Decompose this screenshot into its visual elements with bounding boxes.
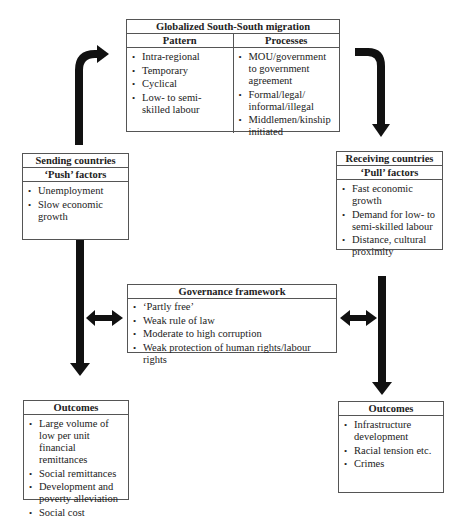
outcomes-left-title: Outcomes bbox=[24, 401, 128, 415]
governance-box: Governance framework ‘Partly free’ Weak … bbox=[127, 284, 337, 353]
list-item: Cyclical bbox=[131, 78, 229, 90]
list-item: Fast economic growth bbox=[341, 183, 438, 207]
double-arrow-right-icon bbox=[340, 310, 377, 326]
arrow-down-right-icon bbox=[372, 276, 392, 395]
pull-factors-list: Fast economic growth Demand for low- to … bbox=[337, 180, 442, 262]
list-item: Large volume of low per unit financial r… bbox=[28, 418, 124, 466]
list-item: Development and poverty alleviation bbox=[28, 481, 124, 505]
list-item: Middlemen/kinship initiated bbox=[238, 114, 336, 138]
list-item: Weak protection of human rights/labour r… bbox=[132, 342, 332, 366]
processes-column: Processes MOU/government to government a… bbox=[233, 34, 340, 133]
list-item: Moderate to high corruption bbox=[132, 328, 332, 340]
list-item: Social cost bbox=[28, 507, 124, 519]
outcomes-left-box: Outcomes Large volume of low per unit fi… bbox=[23, 400, 129, 500]
arrow-down-left-icon bbox=[70, 240, 90, 376]
list-item: Intra-regional bbox=[131, 51, 229, 63]
list-item: Slow economic growth bbox=[27, 199, 124, 223]
list-item: MOU/government to government agreement bbox=[238, 51, 336, 87]
receiving-countries-box: Receiving countries ‘Pull’ factors Fast … bbox=[336, 151, 443, 250]
list-item: Formal/legal/ informal/illegal bbox=[238, 89, 336, 113]
list-item: Unemployment bbox=[27, 185, 124, 197]
sending-countries-box: Sending countries ‘Push’ factors Unemplo… bbox=[22, 153, 129, 240]
receiving-title: Receiving countries bbox=[337, 152, 442, 166]
list-item: ‘Partly free’ bbox=[132, 301, 332, 313]
list-item: Weak rule of law bbox=[132, 315, 332, 327]
processes-header: Processes bbox=[234, 34, 340, 48]
curved-arrow-right-down-icon bbox=[355, 52, 390, 137]
pattern-column: Pattern Intra-regional Temporary Cyclica… bbox=[127, 34, 233, 133]
double-arrow-left-icon bbox=[86, 310, 123, 326]
push-factors-list: Unemployment Slow economic growth bbox=[23, 182, 128, 226]
list-item: Infrastructure development bbox=[343, 419, 439, 443]
outcomes-right-box: Outcomes Infrastructure development Raci… bbox=[338, 401, 444, 493]
list-item: Low- to semi-skilled labour bbox=[131, 92, 229, 116]
outcomes-left-list: Large volume of low per unit financial r… bbox=[24, 415, 128, 520]
processes-list: MOU/government to government agreement F… bbox=[234, 48, 340, 142]
pattern-header: Pattern bbox=[127, 34, 233, 48]
list-item: Racial tension etc. bbox=[343, 445, 439, 457]
sending-title: Sending countries bbox=[23, 154, 128, 168]
migration-title: Globalized South-South migration bbox=[127, 20, 339, 34]
outcomes-right-list: Infrastructure development Racial tensio… bbox=[339, 416, 443, 474]
curved-arrow-up-right-icon bbox=[79, 45, 109, 145]
list-item: Crimes bbox=[343, 458, 439, 470]
list-item: Distance, cultural proximity bbox=[341, 234, 438, 258]
migration-box: Globalized South-South migration Pattern… bbox=[126, 19, 340, 132]
outcomes-right-title: Outcomes bbox=[339, 402, 443, 416]
list-item: Social remittances bbox=[28, 468, 124, 480]
governance-title: Governance framework bbox=[128, 285, 336, 299]
pattern-list: Intra-regional Temporary Cyclical Low- t… bbox=[127, 48, 233, 119]
governance-list: ‘Partly free’ Weak rule of law Moderate … bbox=[128, 299, 336, 369]
list-item: Temporary bbox=[131, 65, 229, 77]
list-item: Demand for low- to semi-skilled labour bbox=[341, 209, 438, 233]
pull-factors-header: ‘Pull’ factors bbox=[337, 166, 442, 180]
push-factors-header: ‘Push’ factors bbox=[23, 168, 128, 182]
